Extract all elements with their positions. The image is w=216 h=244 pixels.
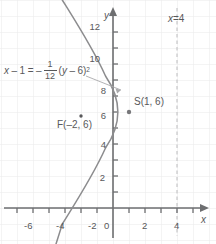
equation-inner-var: y — [62, 66, 67, 76]
focus-point-label: F(–2, 6) — [57, 120, 92, 130]
directrix-label: x=4 — [168, 14, 184, 24]
equation-minus: – — [12, 66, 18, 76]
x-tick-label-0: 0 — [104, 221, 109, 231]
equation-fraction-numerator: 1 — [47, 60, 54, 69]
equation-fraction-denominator: 12 — [44, 72, 56, 81]
directrix-label-value: 4 — [179, 13, 185, 24]
x-tick-label-minus4: -4 — [56, 221, 64, 231]
equation-exponent: 2 — [86, 67, 90, 74]
x-tick-label-2: 2 — [142, 221, 147, 231]
equation-equals: = — [28, 66, 34, 76]
equation-one: 1 — [20, 66, 26, 76]
y-tick-label-8: 8 — [101, 86, 106, 96]
focus-point-dot — [79, 114, 82, 117]
x-tick-label-minus2: -2 — [88, 221, 96, 231]
equation-fraction: 1 12 — [44, 60, 57, 81]
y-axis-label: y — [104, 11, 109, 21]
vertex-point-dot — [127, 110, 131, 114]
coordinate-graph-figure: 12 10 8 6 4 2 -6 -4 -2 0 2 4 y x x=4 F(–… — [0, 0, 216, 244]
y-tick-label-4: 4 — [101, 140, 106, 150]
y-tick-label-2: 2 — [100, 173, 105, 183]
y-tick-label-6: 6 — [101, 111, 106, 121]
x-axis-label: x — [201, 215, 206, 225]
y-tick-label-12: 12 — [89, 22, 100, 32]
equation-lhs-var: x — [4, 66, 9, 76]
plot-canvas — [0, 0, 216, 244]
parabola-equation: x – 1 = – 1 12 (y–6)2 — [4, 60, 90, 81]
vertex-point-label: S(1, 6) — [134, 97, 164, 107]
equation-sign: – — [36, 66, 42, 76]
x-tick-label-minus6: -6 — [24, 221, 32, 231]
y-tick-label-10: 10 — [89, 54, 100, 64]
equation-inner-minus: – — [69, 66, 75, 76]
x-tick-label-4: 4 — [174, 221, 179, 231]
